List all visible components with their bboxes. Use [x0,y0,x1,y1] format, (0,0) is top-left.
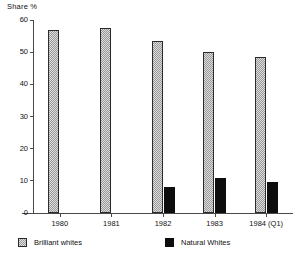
y-tick-label: 0 [24,208,28,217]
legend-item-brilliant-whites[interactable]: Brilliant whites [18,238,82,247]
x-tick-mark [215,213,216,217]
y-tick-mark [30,52,34,53]
bar-brilliant-whites-1983 [203,52,214,213]
bar-chart: Share % 0102030405060 198019811982198319… [0,0,300,262]
bar-brilliant-whites-1984 [255,57,266,213]
bar-brilliant-whites-1980 [48,30,59,213]
y-tick-label: 60 [20,15,28,24]
y-tick-mark [30,180,34,181]
x-tick-label: 1981 [103,219,120,228]
bar-brilliant-whites-1982 [152,41,163,213]
bar-natural-whites-1983 [215,178,226,213]
x-tick-label: 1982 [155,219,172,228]
y-tick-label: 30 [20,112,28,121]
x-tick-label: 1983 [206,219,223,228]
bar-natural-whites-1982 [164,187,175,213]
x-axis-line [22,213,293,214]
legend-label: Brilliant whites [34,238,82,247]
x-tick-label: 1980 [51,219,68,228]
x-tick-label: 1984 (Q1) [249,219,283,228]
y-axis-title: Share % [7,2,37,11]
y-tick-label: 50 [20,47,28,56]
bar-brilliant-whites-1981 [100,28,111,213]
y-axis-line [33,20,34,214]
bar-natural-whites-1984 [267,182,278,213]
x-tick-mark [163,213,164,217]
x-tick-mark [266,213,267,217]
y-tick-mark [30,116,34,117]
legend-item-natural-whites[interactable]: Natural Whites [165,238,230,247]
y-tick-label: 20 [20,144,28,153]
solid-black-swatch [165,238,174,247]
y-tick-mark [30,84,34,85]
y-tick-mark [30,20,34,21]
chart-legend: Brilliant whitesNatural Whites [0,238,300,256]
y-tick-mark [30,148,34,149]
x-tick-mark [60,213,61,217]
legend-label: Natural Whites [181,238,230,247]
y-tick-label: 10 [20,176,28,185]
y-tick-label: 40 [20,79,28,88]
checkered-swatch [18,238,27,247]
x-tick-mark [111,213,112,217]
y-tick-mark [30,213,34,214]
